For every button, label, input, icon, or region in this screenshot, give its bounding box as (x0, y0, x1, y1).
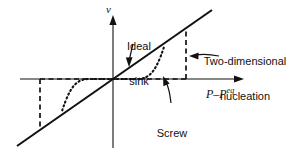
annotation-two-dimensional-nucleation-line2: nucleation (193, 91, 297, 103)
annotation-two-dimensional-nucleation: Two-dimensional nucleation (193, 33, 297, 125)
annotation-ideal-sink-line1: Ideal (117, 41, 161, 53)
annotation-screw-dislocation-ledges: Screw dislocation ledges (136, 105, 208, 153)
annotation-two-dimensional-nucleation-line1: Two-dimensional (193, 56, 297, 68)
screw-dislocation-leader-arrow (163, 76, 171, 103)
annotation-screw-dislocation-ledges-line1: Screw (136, 128, 208, 140)
y-axis-label: v (106, 3, 111, 15)
y-axis-arrowhead (109, 15, 116, 25)
growth-rate-diagram: v P–Peq Ideal sink Two-dimensional nucle… (0, 0, 303, 153)
annotation-ideal-sink-line2: sink (117, 76, 161, 88)
annotation-ideal-sink: Ideal sink (117, 18, 161, 110)
